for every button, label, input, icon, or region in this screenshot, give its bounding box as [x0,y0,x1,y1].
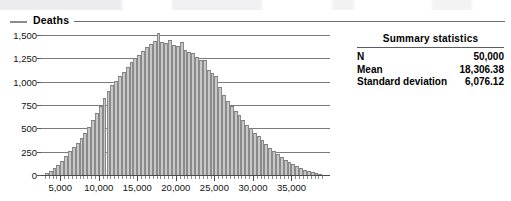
scan-artifact [0,0,511,10]
y-tick-mark [37,82,41,83]
x-tick-minor [87,176,88,179]
summary-stat-value: 6,076.12 [465,76,504,89]
x-tick-minor [107,176,108,179]
x-tick-major [99,176,100,181]
y-tick-mark [37,35,41,36]
legend-label: Deaths [33,14,69,27]
x-tick-minor [68,176,69,179]
summary-stat-label: Mean [357,64,383,77]
x-tick-minor [203,176,204,179]
x-tick-minor [218,176,219,179]
x-tick-minor [280,176,281,179]
x-tick-minor [95,176,96,179]
x-tick-major [176,176,177,181]
x-tick-minor [230,176,231,179]
x-tick-minor [53,176,54,179]
x-tick-minor [72,176,73,179]
legend-line-swatch [10,21,27,23]
x-tick-minor [211,176,212,179]
x-tick-minor [199,176,200,179]
x-tick-minor [276,176,277,179]
summary-stat-value: 50,000 [473,51,504,64]
x-tick-minor [226,176,227,179]
x-tick-minor [153,176,154,179]
plot-area [41,35,330,175]
x-tick-major [253,176,254,181]
summary-stat-row: N50,000 [357,51,504,64]
x-tick-label: 20,000 [161,182,190,193]
x-tick-minor [222,176,223,179]
x-tick-label: 25,000 [200,182,229,193]
summary-stat-value: 18,306.38 [460,64,505,77]
x-tick-minor [49,176,50,179]
x-tick-minor [45,176,46,179]
x-tick-minor [110,176,111,179]
x-tick-minor [76,176,77,179]
x-tick-minor [160,176,161,179]
x-tick-label: 10,000 [84,182,113,193]
x-tick-minor [145,176,146,179]
x-tick-minor [149,176,150,179]
x-axis-ticks [41,176,330,181]
summary-stat-label: Standard deviation [357,76,447,89]
x-tick-minor [83,176,84,179]
summary-title: Summary statistics [357,33,504,47]
x-tick-minor [103,176,104,179]
x-tick-minor [207,176,208,179]
y-tick-label: 1,500 [1,31,37,40]
y-tick-label: 750 [1,101,37,110]
x-tick-minor [168,176,169,179]
x-tick-minor [114,176,115,179]
summary-statistics-panel: Summary statistics N50,000Mean18,306.38S… [357,33,504,89]
summary-rows: N50,000Mean18,306.38Standard deviation6,… [357,51,504,89]
y-tick-mark [37,175,41,176]
x-tick-minor [288,176,289,179]
x-tick-minor [268,176,269,179]
x-tick-minor [172,176,173,179]
x-tick-minor [184,176,185,179]
summary-stat-row: Mean18,306.38 [357,64,504,77]
histogram-chart: 1,5001,2501,0007505002500 5,00010,00015,… [0,28,340,188]
x-tick-label: 30,000 [238,182,267,193]
y-tick-mark [37,58,41,59]
summary-stat-row: Standard deviation6,076.12 [357,76,504,89]
x-tick-minor [187,176,188,179]
y-tick-mark [37,105,41,106]
x-tick-minor [299,176,300,179]
x-tick-minor [249,176,250,179]
legend: Deaths [0,14,511,28]
x-tick-label: 5,000 [48,182,72,193]
x-tick-minor [238,176,239,179]
x-tick-minor [56,176,57,179]
x-tick-minor [307,176,308,179]
x-axis: 5,00010,00015,00020,00025,00030,00035,00… [0,182,340,196]
x-tick-minor [122,176,123,179]
y-tick-label: 1,250 [1,54,37,63]
x-tick-minor [322,176,323,179]
x-tick-minor [264,176,265,179]
x-tick-minor [157,176,158,179]
x-tick-minor [257,176,258,179]
x-tick-minor [64,176,65,179]
y-tick-label: 1,000 [1,78,37,87]
x-tick-minor [126,176,127,179]
y-tick-label: 500 [1,124,37,133]
summary-stat-label: N [357,51,364,64]
x-tick-minor [295,176,296,179]
x-tick-minor [311,176,312,179]
histogram-bars [41,35,330,175]
x-tick-minor [318,176,319,179]
x-tick-minor [141,176,142,179]
x-tick-minor [180,176,181,179]
x-tick-minor [130,176,131,179]
x-tick-minor [164,176,165,179]
histogram-bar [318,174,322,175]
x-tick-major [60,176,61,181]
x-tick-minor [118,176,119,179]
x-tick-minor [272,176,273,179]
x-tick-label: 15,000 [123,182,152,193]
y-tick-mark [37,152,41,153]
y-tick-label: 0 [1,171,37,180]
x-tick-minor [80,176,81,179]
y-tick-label: 250 [1,148,37,157]
